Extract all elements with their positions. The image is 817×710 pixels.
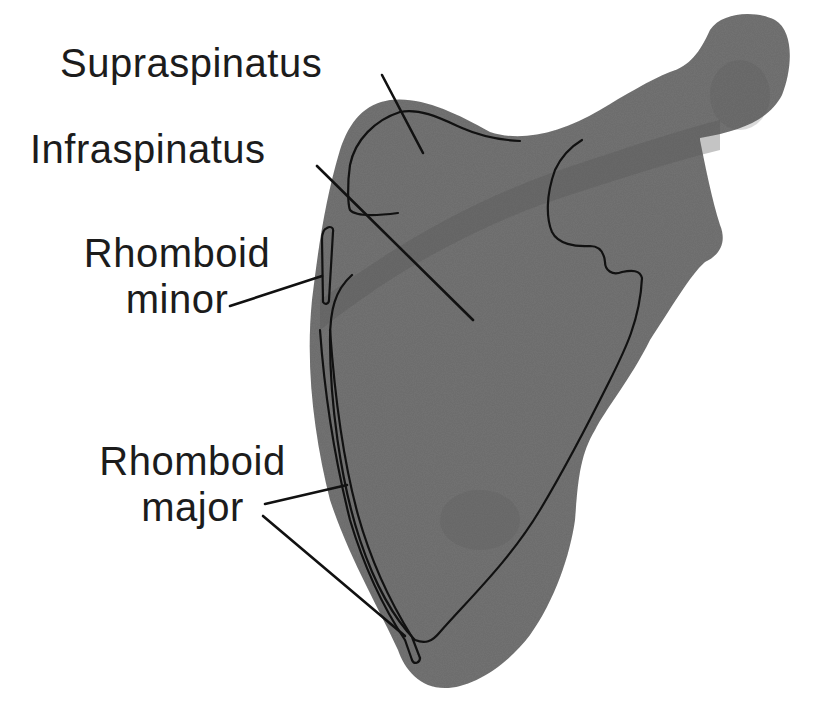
label-rhomboid-major-line1: Rhomboid <box>80 438 305 484</box>
label-rhomboid-minor: Rhomboid minor <box>62 230 292 322</box>
label-rhomboid-major-line2: major <box>80 484 305 530</box>
label-supraspinatus: Supraspinatus <box>60 40 322 86</box>
label-rhomboid-major: Rhomboid major <box>80 438 305 530</box>
label-rhomboid-minor-line2: minor <box>62 276 292 322</box>
scapula-illustration <box>0 0 817 710</box>
label-supraspinatus-text: Supraspinatus <box>60 41 322 85</box>
label-rhomboid-minor-line1: Rhomboid <box>62 230 292 276</box>
scapula-bone <box>310 14 790 688</box>
label-infraspinatus: Infraspinatus <box>30 126 266 172</box>
scapula-diagram: Supraspinatus Infraspinatus Rhomboid min… <box>0 0 817 710</box>
label-infraspinatus-text: Infraspinatus <box>30 127 266 171</box>
